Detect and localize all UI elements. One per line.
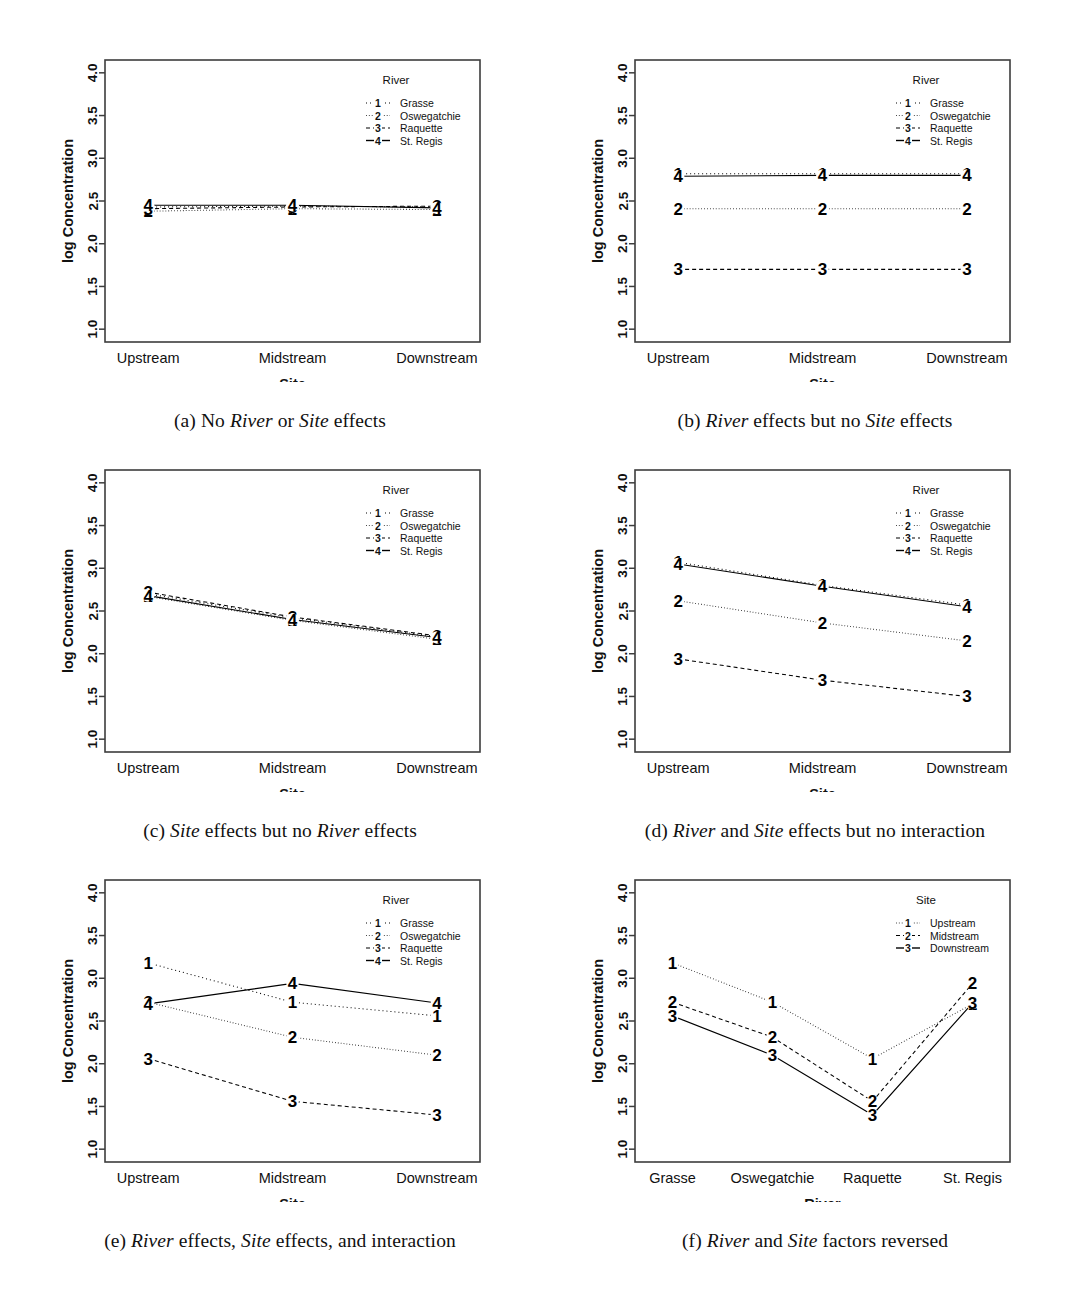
data-point-label-3: 3 [432,1106,441,1125]
caption-prefix-c: (c) [143,820,170,841]
legend-label-1: Upstream [930,917,976,929]
series-point-labels: 111222333444 [142,196,443,221]
y-tick-label: 3.0 [86,149,101,168]
panel-caption-f: (f) River and Site factors reversed [555,1230,1073,1252]
y-tick-label: 2.0 [86,644,101,663]
x-tick-label: Downstream [926,760,1007,776]
panel-d: 1.01.52.02.53.03.54.0log ConcentrationUp… [590,452,1060,792]
legend-key-1: 1 [375,917,381,929]
legend-label-4: St. Regis [400,135,443,147]
data-point-label-3: 3 [288,1092,297,1111]
y-tick-label: 4.0 [86,883,101,902]
caption-part-e-2: effects, [174,1230,241,1251]
legend-label-1: Grasse [400,917,434,929]
y-tick-label: 2.5 [616,191,631,210]
data-point-label-4: 4 [432,628,442,647]
x-axis-label: Site [809,376,836,382]
legend-key-2: 2 [905,520,911,532]
legend-river: River1Grasse2Oswegatchie3Raquette4St. Re… [896,484,991,557]
data-point-label-2: 2 [673,592,682,611]
legend-key-3: 3 [905,532,911,544]
series-line-1 [673,963,973,1059]
data-point-label-2: 2 [768,1028,777,1047]
y-tick-label: 1.0 [86,730,101,749]
y-axis-label: log Concentration [60,549,76,673]
data-point-label-3: 3 [968,994,977,1013]
x-tick-label: Raquette [843,1170,902,1186]
data-point-label-3: 3 [673,650,682,669]
data-point-label-3: 3 [668,1007,677,1026]
legend-key-1: 1 [375,507,381,519]
y-tick-label: 3.5 [616,926,631,945]
data-point-label-4: 4 [818,166,828,185]
y-tick-label: 2.5 [616,601,631,620]
caption-part-f-1: River [707,1230,750,1251]
data-point-label-2: 2 [962,632,971,651]
panel-caption-d: (d) River and Site effects but no intera… [555,820,1073,842]
y-tick-label: 3.0 [86,559,101,578]
legend-key-1: 1 [905,507,911,519]
panel-c: 1.01.52.02.53.03.54.0log ConcentrationUp… [60,452,530,792]
caption-part-e-3: Site [241,1230,271,1251]
y-tick-label: 3.0 [86,969,101,988]
panel-caption-a: (a) No River or Site effects [20,410,540,432]
x-tick-label: Upstream [117,350,180,366]
caption-part-f-2: and [749,1230,787,1251]
legend-label-3: Downstream [930,942,989,954]
y-tick-label: 2.5 [86,1011,101,1030]
data-point-label-3: 3 [768,1046,777,1065]
legend-key-1: 1 [375,97,381,109]
x-tick-label: Upstream [117,1170,180,1186]
data-point-label-4: 4 [962,166,972,185]
figure-grid: 1.01.52.02.53.03.54.0log ConcentrationUp… [0,0,1073,1292]
data-point-label-3: 3 [868,1106,877,1125]
caption-part-e-1: River [131,1230,174,1251]
interaction-plot-f: 1.01.52.02.53.03.54.0log ConcentrationGr… [590,862,1060,1202]
y-tick-label: 2.0 [616,644,631,663]
x-axis-label: River [804,1196,841,1202]
data-point-label-4: 4 [288,974,298,993]
caption-part-d-4: effects but no interaction [784,820,986,841]
y-tick-label: 4.0 [616,63,631,82]
data-point-label-2: 2 [818,614,827,633]
x-tick-label: Oswegatchie [731,1170,815,1186]
legend-key-3: 3 [375,942,381,954]
caption-part-b-2: effects but no [748,410,865,431]
x-tick-label: Midstream [789,350,857,366]
x-axis-label: Site [279,1196,306,1202]
caption-part-c-1: Site [170,820,200,841]
caption-part-a-2: or [273,410,299,431]
data-point-label-2: 2 [673,200,682,219]
x-tick-label: Downstream [396,350,477,366]
caption-part-c-2: effects but no [200,820,317,841]
legend-label-1: Grasse [930,97,964,109]
series-point-labels: 111222333444 [142,583,443,649]
caption-prefix-f: (f) [682,1230,707,1251]
legend-title: River [913,74,940,86]
legend-key-3: 3 [905,122,911,134]
legend-river: River1Grasse2Oswegatchie3Raquette4St. Re… [366,484,461,557]
caption-part-a-1: River [230,410,273,431]
y-tick-label: 2.5 [616,1011,631,1030]
interaction-plot-b: 1.01.52.02.53.03.54.0log ConcentrationUp… [590,42,1060,382]
legend-label-1: Grasse [930,507,964,519]
caption-part-b-4: effects [895,410,952,431]
y-tick-label: 1.0 [616,320,631,339]
y-tick-label: 3.5 [616,516,631,535]
data-point-label-4: 4 [143,196,153,215]
x-tick-label: Midstream [789,760,857,776]
caption-prefix-a: (a) [174,410,201,431]
y-tick-label: 3.5 [86,926,101,945]
y-tick-label: 1.0 [616,730,631,749]
data-point-label-4: 4 [818,577,828,596]
interaction-plot-d: 1.01.52.02.53.03.54.0log ConcentrationUp… [590,452,1060,792]
panel-b: 1.01.52.02.53.03.54.0log ConcentrationUp… [590,42,1060,382]
series-lines [678,174,967,270]
legend-key-4: 4 [905,545,911,557]
series-line-2 [673,983,973,1101]
x-tick-label: Upstream [647,350,710,366]
legend-label-3: Raquette [930,532,973,544]
x-axis-label: Site [279,376,306,382]
legend-label-1: Grasse [400,97,434,109]
y-tick-label: 3.5 [616,106,631,125]
